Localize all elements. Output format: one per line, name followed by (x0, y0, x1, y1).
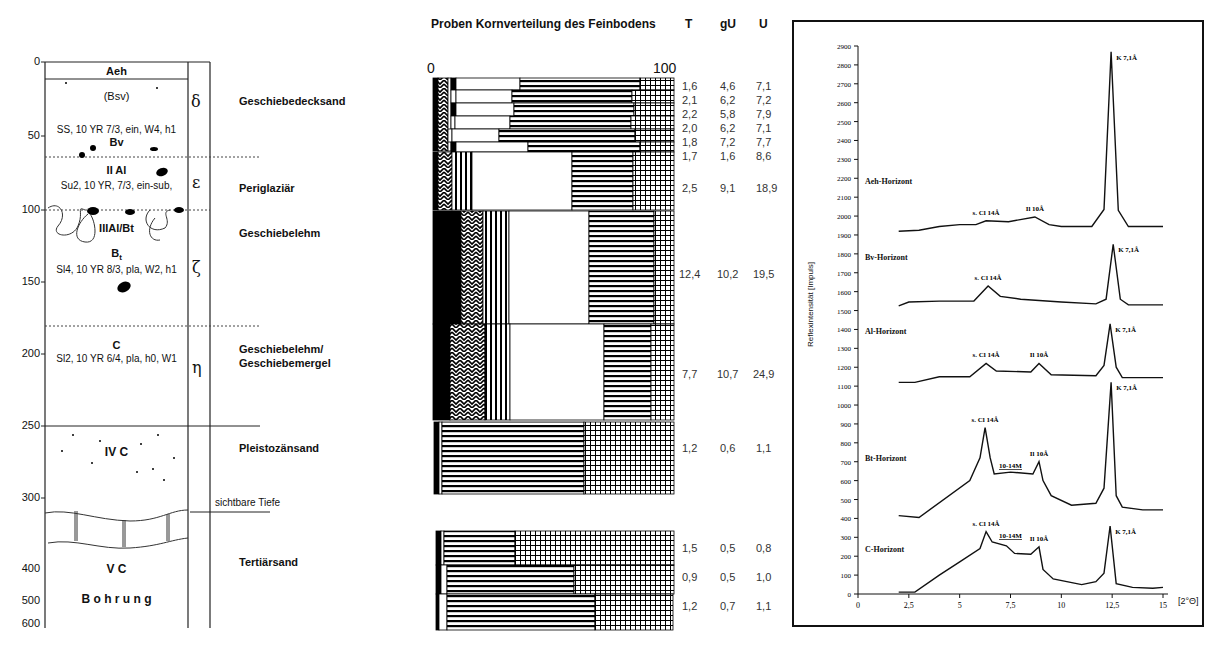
peak-annotation: Il 10Å (1030, 351, 1048, 359)
horizon-bt-label: B (111, 247, 119, 259)
peak-annotation: 10-14M (999, 462, 1022, 470)
value-gu: 1,6 (720, 150, 735, 162)
label-bohrung: B o h r u n g (45, 592, 188, 606)
depth-tick: 600 (4, 617, 40, 629)
value-t: 1,5 (682, 542, 697, 554)
y-tick-label: 2500 (837, 119, 852, 127)
value-u: 1,1 (756, 600, 771, 612)
peak-annotation: 10-14M (999, 532, 1022, 540)
value-t: 0,9 (682, 571, 697, 583)
stratum-periglaziar: Periglaziär (239, 182, 295, 194)
peak-annotation: Il 10Å (1026, 205, 1044, 213)
peak-annotation: Il 10Å (1030, 450, 1048, 458)
value-u: 24,9 (753, 368, 774, 380)
y-tick-label: 2100 (837, 194, 852, 202)
peak-annotation: s. Cl 14Å (975, 274, 1002, 282)
value-gu: 6,2 (720, 122, 735, 134)
col-header-gu: gU (720, 17, 736, 31)
value-u: 18,9 (756, 182, 777, 194)
peak-annotation: K 7,1Å (1115, 528, 1136, 536)
y-tick-label: 2300 (837, 156, 852, 164)
value-u: 7,1 (756, 80, 771, 92)
value-gu: 7,2 (720, 136, 735, 148)
value-u: 7,1 (756, 122, 771, 134)
value-u: 7,7 (756, 136, 771, 148)
greek-delta: δ (191, 92, 201, 111)
depth-tick: 100 (4, 203, 40, 215)
value-t: 1,2 (682, 442, 697, 454)
value-u: 8,6 (756, 150, 771, 162)
x-tick-label: 2,5 (904, 601, 914, 610)
peak-annotation: K 7,1Å (1115, 326, 1136, 334)
y-tick-label: 800 (841, 440, 852, 448)
value-gu: 0,7 (720, 600, 735, 612)
value-gu: 4,6 (720, 80, 735, 92)
x-tick-label: 15 (1159, 601, 1167, 610)
stratum-geschiebelehm-mergel-1: Geschiebelehm/ (239, 343, 323, 355)
y-tick-label: 2700 (837, 81, 852, 89)
value-t: 12,4 (679, 268, 700, 280)
value-t: 7,7 (682, 368, 697, 380)
y-tick-label: 500 (841, 497, 852, 505)
xrd-chart: 0100200300400500600700800900100011001200… (790, 0, 1221, 646)
horizon-bt-desc: Sl4, 10 YR 8/3, pla, W2, h1 (45, 264, 188, 275)
horizon-c: C (45, 339, 188, 351)
stratum-tertiarsand: Tertiärsand (239, 556, 298, 568)
y-tick-label: 2600 (837, 100, 852, 108)
greek-zeta: ζ (192, 258, 201, 277)
y-tick-label: 1000 (837, 402, 852, 410)
stratum-pleistozansand: Pleistozänsand (239, 442, 319, 454)
value-t: 1,6 (682, 80, 697, 92)
series-label-al: Al-Horizont (865, 327, 906, 336)
value-gu: 0,5 (720, 571, 735, 583)
horizon-c-desc: Sl2, 10 YR 6/4, pla, h0, W1 (45, 353, 188, 364)
xrd-plot: 0100200300400500600700800900100011001200… (790, 0, 1221, 646)
stratum-geschiebelehm-mergel-2: Geschiebemergel (239, 357, 331, 369)
y-tick-label: 600 (841, 478, 852, 486)
greek-epsilon: ε (192, 173, 200, 192)
y-tick-label: 1100 (837, 383, 851, 391)
peak-annotation: s. Cl 14Å (973, 209, 1000, 217)
horizon-aeh: Aeh (45, 65, 188, 77)
y-tick-label: 200 (841, 553, 852, 561)
y-tick-label: 1400 (837, 326, 852, 334)
value-u: 1,0 (756, 571, 771, 583)
value-t: 2,0 (682, 122, 697, 134)
y-axis-label: Reflexintensität [Impuls] (806, 225, 815, 385)
y-tick-label: 2900 (837, 43, 852, 51)
y-tick-label: 1900 (837, 232, 852, 240)
series-label-aeh: Aeh-Horizont (865, 177, 912, 186)
value-u: 7,2 (756, 94, 771, 106)
value-gu: 9,1 (720, 182, 735, 194)
value-t: 2,2 (682, 108, 697, 120)
horizon-iial-desc: Su2, 10 YR, 7/3, ein-sub, (45, 180, 188, 191)
x-axis-unit: [2°Θ] (1178, 596, 1199, 606)
horizon-bt: Bt (45, 247, 188, 262)
peak-annotation: K 7,1Å (1118, 246, 1139, 254)
depth-tick: 150 (4, 275, 40, 287)
y-tick-label: 900 (841, 421, 852, 429)
horizon-vc: V C (45, 562, 188, 576)
y-tick-label: 1600 (837, 289, 852, 297)
x-tick-label: 0 (856, 601, 860, 610)
peak-annotation: K 7,1Å (1116, 54, 1137, 62)
x-tick-label: 5 (958, 601, 962, 610)
y-tick-label: 2000 (837, 213, 852, 221)
y-tick-label: 700 (841, 459, 852, 467)
col-header-t: T (685, 17, 692, 31)
y-tick-label: 2800 (837, 62, 852, 70)
series-label-bt: Bt-Horizont (865, 454, 906, 463)
value-t: 2,5 (682, 182, 697, 194)
value-t: 1,2 (682, 600, 697, 612)
value-gu: 0,5 (720, 542, 735, 554)
horizon-bt-subscript: t (119, 253, 122, 262)
value-t: 2,1 (682, 94, 697, 106)
grain-size-panel: Proben Kornverteilung des Feinbodens T g… (420, 0, 790, 646)
horizon-bsv: (Bsv) (45, 90, 188, 102)
depth-tick: 200 (4, 347, 40, 359)
value-gu: 10,2 (717, 268, 738, 280)
depth-tick: 50 (4, 129, 40, 141)
soil-profile: 0 50 100 150 200 250 300 400 500 600 Aeh… (0, 0, 420, 646)
value-t: 1,7 (682, 150, 697, 162)
horizon-bv: Bv (45, 136, 188, 148)
